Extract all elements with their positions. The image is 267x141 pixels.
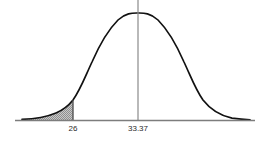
bell-curve-path [22, 13, 250, 120]
x-tick-label-26: 26 [57, 124, 89, 133]
x-tick-label-mean: 33.37 [118, 124, 158, 133]
shaded-left-tail-region [22, 100, 73, 120]
normal-distribution-chart: 26 33.37 [0, 0, 267, 141]
bell-curve-icon [0, 0, 267, 141]
